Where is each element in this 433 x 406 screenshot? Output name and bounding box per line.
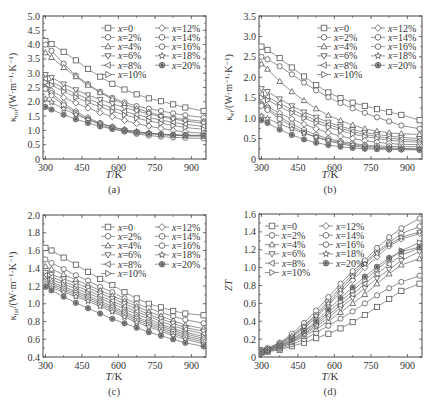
x-axis-label-d: T/K xyxy=(222,370,433,382)
square-marker-icon xyxy=(49,248,54,253)
triangle-up-marker-icon xyxy=(265,66,271,71)
triangle-down-marker-icon xyxy=(105,253,111,258)
y-tick-label: 0.5 xyxy=(244,133,257,144)
y-axis-label: κlat/(W·m⁻¹·K⁻¹) xyxy=(7,252,20,321)
y-tick-label: 1.5 xyxy=(244,92,257,103)
y-tick-label: 2.5 xyxy=(244,51,257,62)
circle-marker-icon xyxy=(259,103,264,108)
y-tick-label: 1.2 xyxy=(28,281,41,292)
square-marker-icon xyxy=(417,281,422,286)
triangle-left-marker-icon xyxy=(321,62,326,68)
circle-marker-icon xyxy=(301,80,306,85)
square-marker-icon xyxy=(158,99,163,104)
y-tick-label: 1.2 xyxy=(244,244,257,255)
square-marker-icon xyxy=(314,82,319,87)
circle-marker-icon xyxy=(105,234,111,240)
square-marker-icon xyxy=(183,311,188,316)
square-marker-icon xyxy=(43,245,48,250)
circle-marker-icon xyxy=(375,44,381,50)
legend: x=0x=2%x=4%x=6%x=8%x=10%x=12%x=14%x=16%x… xyxy=(101,23,200,81)
circle-marker-icon xyxy=(326,323,331,328)
star-marker-icon xyxy=(375,53,381,59)
square-marker-icon xyxy=(259,44,264,49)
square-marker-icon xyxy=(417,118,422,123)
hexagon-marker-icon xyxy=(375,34,380,40)
square-marker-icon xyxy=(110,81,115,86)
y-tick-label: 1.4 xyxy=(244,226,257,237)
y-tick-label: 5.0 xyxy=(28,11,41,22)
square-marker-icon xyxy=(171,308,176,313)
circle-marker-icon xyxy=(399,226,404,231)
caption-c: (c) xyxy=(6,385,222,397)
diamond-marker-icon xyxy=(301,121,307,127)
circle-marker-icon xyxy=(387,119,392,124)
y-tick-label: 0.8 xyxy=(28,316,41,327)
hexagon-marker-icon xyxy=(323,232,328,238)
y-tick-label: 0.6 xyxy=(244,298,257,309)
legend-label: x=10% xyxy=(117,69,146,80)
square-marker-icon xyxy=(73,262,78,267)
circle-marker-icon xyxy=(269,233,275,239)
hexagon-marker-icon xyxy=(159,34,164,40)
circle-marker-icon xyxy=(362,301,367,306)
circle-marker-icon xyxy=(338,281,343,286)
circle-marker-icon xyxy=(159,44,165,50)
circle-marker-icon xyxy=(43,86,48,91)
square-marker-icon xyxy=(387,109,392,114)
circle-marker-icon xyxy=(374,293,379,298)
circle-marker-icon xyxy=(417,273,422,278)
square-marker-icon xyxy=(399,112,404,117)
y-tick-label: 4.5 xyxy=(28,25,41,36)
triangle-left-marker-icon xyxy=(105,261,110,267)
square-marker-icon xyxy=(110,283,115,288)
square-marker-icon xyxy=(265,47,270,52)
x-axis-unit: /K xyxy=(112,168,123,180)
y-tick-label: 1.4 xyxy=(28,263,41,274)
diamond-marker-icon xyxy=(325,130,331,136)
circle-marker-icon xyxy=(417,216,422,221)
square-marker-icon xyxy=(105,224,111,230)
y-tick-label: 2.0 xyxy=(28,96,41,107)
star-marker-icon xyxy=(323,251,329,257)
square-marker-icon xyxy=(73,58,78,63)
legend-label: x=10% xyxy=(117,268,146,279)
y-tick-label: 0.6 xyxy=(28,334,41,345)
circle-marker-icon xyxy=(338,316,343,321)
legend-label: x=10% xyxy=(333,69,362,80)
x-axis-label-a: T/K xyxy=(6,168,222,180)
circle-marker-icon xyxy=(323,242,329,248)
square-marker-icon xyxy=(326,331,331,336)
star-marker-icon xyxy=(159,53,165,59)
square-marker-icon xyxy=(350,100,355,105)
circle-marker-icon xyxy=(265,107,270,112)
triangle-down-marker-icon xyxy=(269,252,275,257)
square-marker-icon xyxy=(314,336,319,341)
triangle-up-marker-icon xyxy=(49,266,55,271)
chart-panel-a: 00.51.01.52.02.53.03.54.04.55.0300450600… xyxy=(0,0,216,203)
y-tick-label: 3.5 xyxy=(244,11,257,22)
square-marker-icon xyxy=(362,103,367,108)
y-tick-label: 1.0 xyxy=(28,298,41,309)
circle-marker-icon xyxy=(399,123,404,128)
square-marker-icon xyxy=(338,96,343,101)
y-tick-label: 3.0 xyxy=(28,68,41,79)
star-marker-icon xyxy=(277,121,283,127)
circle-marker-icon xyxy=(314,88,319,93)
circle-marker-icon xyxy=(49,93,54,98)
y-tick-label: 1.6 xyxy=(28,245,41,256)
legend: x=0x=2%x=4%x=6%x=8%x=10%x=12%x=14%x=16%x… xyxy=(101,222,200,280)
circle-marker-icon xyxy=(387,286,392,291)
triangle-right-marker-icon xyxy=(106,71,111,77)
square-marker-icon xyxy=(146,96,151,101)
legend: x=0x=2%x=4%x=6%x=8%x=10%x=12%x=14%x=16%x… xyxy=(265,221,364,279)
legend-label: x=20% xyxy=(171,60,200,71)
triangle-down-marker-icon xyxy=(386,267,392,272)
circle-marker-icon xyxy=(321,35,327,41)
square-marker-icon xyxy=(338,326,343,331)
diamond-marker-icon xyxy=(159,25,166,32)
circle-marker-icon xyxy=(387,235,392,240)
legend-label: x=20% xyxy=(335,258,364,269)
x-axis-unit: /K xyxy=(328,168,339,180)
square-marker-icon xyxy=(49,41,54,46)
caption-d: (d) xyxy=(222,385,433,397)
